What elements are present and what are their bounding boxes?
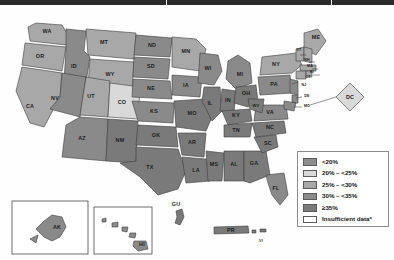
- state-shape-NJ: [290, 79, 298, 95]
- state-label-OR: OR: [36, 53, 45, 59]
- state-label-ME: ME: [312, 34, 321, 40]
- state-label-ID: ID: [71, 63, 77, 69]
- state-label-MA: MA: [307, 64, 313, 68]
- map-legend: <20% 20% – <25% 25% – <30% 30% – <35% ≥3…: [297, 151, 389, 227]
- map-figure: WA OR ID MT WY NV CA UT CO AZ NM ND SD N…: [0, 0, 394, 260]
- state-label-IL: IL: [207, 100, 213, 106]
- state-label-WA: WA: [42, 28, 51, 34]
- state-label-TX: TX: [146, 164, 153, 170]
- state-label-GA: GA: [250, 160, 259, 166]
- state-label-AL: AL: [230, 161, 238, 167]
- dc-leader-line: [310, 97, 336, 105]
- state-label-IA: IA: [183, 82, 189, 88]
- state-label-KS: KS: [150, 108, 158, 114]
- legend-swatch-insufficient: [303, 216, 317, 224]
- state-label-OH: OH: [242, 90, 251, 96]
- state-label-CO: CO: [118, 99, 127, 105]
- state-label-DE: DE: [304, 94, 310, 98]
- legend-item: 20% – <25%: [303, 168, 383, 180]
- legend-label-20-25: 20% – <25%: [322, 170, 357, 176]
- alaska-inset: AK: [12, 201, 88, 254]
- state-label-AK: AK: [53, 224, 61, 230]
- state-label-MI: MI: [237, 71, 244, 77]
- state-label-MN: MN: [182, 48, 191, 54]
- territory-label-GU: GU: [172, 201, 181, 207]
- state-label-NY: NY: [272, 61, 280, 67]
- state-label-NV: NV: [51, 95, 59, 101]
- state-label-PA: PA: [270, 81, 278, 87]
- state-label-NM: NM: [116, 137, 125, 143]
- state-label-NC: NC: [266, 124, 274, 130]
- state-label-VT: VT: [297, 48, 303, 52]
- state-label-SD: SD: [147, 63, 155, 69]
- hawaii-inset: HI: [94, 207, 152, 254]
- state-label-WI: WI: [205, 65, 212, 71]
- legend-label-30-35: 30% – <35%: [322, 193, 357, 199]
- legend-item: Insufficient data*: [303, 214, 383, 226]
- legend-label-insufficient: Insufficient data*: [322, 216, 372, 222]
- state-label-WV: WV: [253, 103, 260, 108]
- state-label-DC: DC: [346, 94, 354, 100]
- state-shapes: [16, 23, 326, 205]
- legend-swatch-30-35: [303, 193, 317, 201]
- state-label-WY: WY: [105, 71, 114, 77]
- state-label-TN: TN: [232, 127, 240, 133]
- territories: GU PR VI: [172, 201, 266, 243]
- territory-shape-VI: [252, 229, 266, 233]
- state-label-UT: UT: [87, 93, 95, 99]
- legend-label-lt20: <20%: [322, 159, 338, 165]
- state-label-CT: CT: [305, 75, 311, 79]
- legend-item: ≥35%: [303, 202, 383, 214]
- state-label-NJ: NJ: [302, 83, 307, 87]
- legend-swatch-gte35: [303, 204, 317, 212]
- state-label-ND: ND: [148, 42, 156, 48]
- legend-label-gte35: ≥35%: [322, 205, 338, 211]
- state-label-MS: MS: [210, 161, 219, 167]
- state-label-VA: VA: [266, 109, 274, 115]
- state-label-MD: MD: [304, 104, 310, 108]
- state-label-MO: MO: [187, 110, 196, 116]
- state-label-AZ: AZ: [78, 135, 86, 141]
- state-label-LA: LA: [192, 167, 200, 173]
- state-label-FL: FL: [273, 185, 280, 191]
- state-shape-DE: [292, 95, 298, 103]
- legend-swatch-lt20: [303, 158, 317, 166]
- state-label-NE: NE: [147, 85, 155, 91]
- state-label-KY: KY: [232, 112, 240, 118]
- state-label-OK: OK: [152, 132, 161, 138]
- territory-shape-GU: [175, 209, 184, 225]
- legend-swatch-25-30: [303, 181, 317, 189]
- legend-item: 25% – <30%: [303, 179, 383, 191]
- state-label-MT: MT: [100, 39, 109, 45]
- state-label-CA: CA: [26, 103, 34, 109]
- legend-item: <20%: [303, 156, 383, 168]
- legend-item: 30% – <35%: [303, 191, 383, 203]
- territory-label-PR: PR: [227, 227, 235, 233]
- state-label-IN: IN: [225, 97, 231, 103]
- state-label-HI: HI: [139, 241, 145, 247]
- state-label-RI: RI: [310, 70, 314, 74]
- legend-label-25-30: 25% – <30%: [322, 182, 357, 188]
- state-label-SC: SC: [264, 140, 272, 146]
- state-label-NH: NH: [304, 58, 310, 62]
- state-shape-MT: [86, 29, 136, 59]
- state-shape-MD: [284, 101, 296, 111]
- territory-label-VI: VI: [259, 239, 263, 243]
- state-label-AR: AR: [188, 139, 196, 145]
- legend-swatch-20-25: [303, 170, 317, 178]
- state-shape-GA: [244, 151, 270, 183]
- dc-callout: DC: [310, 83, 364, 111]
